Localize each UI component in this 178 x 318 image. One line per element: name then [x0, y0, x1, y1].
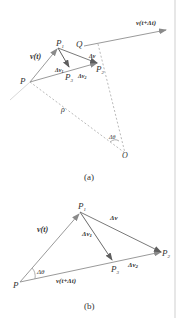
- radius-dashed-p: [30, 82, 125, 153]
- label-delta-v: Δv: [88, 53, 96, 59]
- label-delta-theta: Δθ: [108, 134, 116, 140]
- figure-a: v(t) v(t+Δt) P P1 P2 P3 Q O Δv Δv1 Δv2 ρ…: [10, 19, 166, 182]
- caption-a: (a): [84, 172, 94, 182]
- label-delta-v2: Δv2: [77, 73, 86, 80]
- vector-delta-v: [80, 212, 161, 252]
- point-o: O: [122, 151, 128, 160]
- point-p2: P2: [161, 248, 171, 259]
- label-rho: ρ: [60, 105, 65, 114]
- point-p1: P1: [77, 201, 86, 212]
- figure-b: P P1 P2 P3 v(t) v(t+Δt) Δv Δv1 Δv2 Δθ (b…: [12, 201, 171, 311]
- vector-p-p2: [30, 63, 97, 82]
- angle-arc: [32, 268, 35, 279]
- label-v-t-dt: v(t+Δt): [136, 19, 156, 27]
- label-delta-v: Δv: [109, 214, 118, 222]
- label-delta-v1: Δv1: [54, 67, 63, 74]
- vector-v-t-dt: [84, 30, 166, 46]
- label-v-t: v(t): [37, 225, 48, 234]
- point-p3: P3: [64, 72, 74, 83]
- angle-arc: [110, 140, 119, 142]
- point-p: P: [12, 280, 19, 290]
- vector-delta-v1: [58, 48, 69, 67]
- label-v-t: v(t): [30, 52, 41, 61]
- kinematics-diagram: v(t) v(t+Δt) P P1 P2 P3 Q O Δv Δv1 Δv2 ρ…: [0, 0, 178, 318]
- point-p: P: [19, 76, 26, 86]
- point-p1: P1: [55, 38, 64, 49]
- point-q: Q: [76, 39, 83, 49]
- vector-v-t-dt: [20, 252, 161, 282]
- label-delta-v2: Δv2: [127, 261, 139, 269]
- label-delta-theta: Δθ: [36, 268, 45, 276]
- label-v-t-dt: v(t+Δt): [56, 277, 76, 285]
- point-p3: P3: [110, 264, 120, 275]
- label-delta-v1: Δv1: [81, 230, 92, 238]
- caption-b: (b): [84, 301, 95, 311]
- point-p2: P2: [95, 64, 105, 75]
